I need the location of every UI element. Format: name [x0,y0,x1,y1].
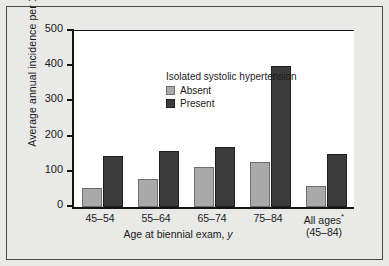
x-axis-title: Age at biennial exam, y [72,228,284,240]
legend-item-absent: Absent [166,85,297,96]
bar-present-1 [159,151,179,207]
chart-legend: Isolated systolic hypertension Absent Pr… [166,71,297,109]
y-tick-0: 0 [67,205,74,207]
x-tick-label-4: All ages*(45–84) [284,212,364,238]
y-tick-400: 400 [67,64,74,66]
bar-absent-3 [250,162,270,207]
bar-present-0 [103,156,123,207]
y-tick-300: 300 [67,99,74,101]
y-tick-label-200: 200 [45,128,63,140]
y-tick-label-0: 0 [57,198,63,210]
bar-absent-0 [82,188,102,207]
bar-present-4 [327,154,347,207]
legend-label-absent: Absent [180,85,211,96]
y-axis-title: Average annual incidence per 10,000 [26,0,38,148]
y-tick-500: 500 [67,29,74,31]
legend-item-present: Present [166,98,297,109]
legend-label-present: Present [180,98,214,109]
y-tick-label-300: 300 [45,92,63,104]
y-tick-100: 100 [67,170,74,172]
y-tick-200: 200 [67,135,74,137]
y-tick-label-400: 400 [45,57,63,69]
y-tick-label-100: 100 [45,163,63,175]
bar-absent-1 [138,179,158,207]
figure-container: Average annual incidence per 10,000 0100… [0,0,389,266]
legend-swatch-absent [166,86,175,95]
legend-title: Isolated systolic hypertension [166,71,297,82]
bar-present-2 [215,147,235,207]
bar-absent-2 [194,167,214,207]
y-tick-label-500: 500 [45,22,63,34]
legend-swatch-present [166,99,175,108]
x-tick-sublabel-4: (45–84) [284,226,364,238]
bar-absent-4 [306,186,326,207]
plot-area: 0100200300400500 Isolated systolic hyper… [72,31,354,209]
